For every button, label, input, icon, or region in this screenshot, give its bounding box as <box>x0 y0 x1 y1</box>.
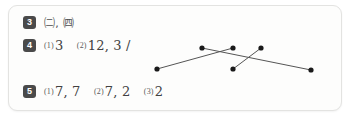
question-number-badge-3: 3 <box>23 16 36 29</box>
part-value: 2 <box>155 84 163 99</box>
answer-part: (1)3 <box>44 38 63 53</box>
part-value: 12, 3 / <box>88 38 131 53</box>
p-bottom-mid <box>230 66 235 71</box>
answer-part: (1)7, 7 <box>44 84 81 99</box>
part-label: (2) <box>77 41 87 50</box>
crossing-lines-matching-diagram <box>141 34 331 82</box>
p-bottom-right <box>308 67 313 72</box>
part-label: (2) <box>94 87 104 96</box>
seg-bottommid-to-topright <box>233 48 261 69</box>
question-number-badge-4: 4 <box>23 39 36 52</box>
part-label: (1) <box>44 41 54 50</box>
part-value: 7, 7 <box>55 84 81 99</box>
answer-key-card: 3 ㈡, ㈣ 4 (1)3 (2)12, 3 / 5 (1)7, 7 (2)7,… <box>8 5 342 111</box>
answer-part: (2)12, 3 / <box>77 38 131 53</box>
answer-part: (2)7, 2 <box>94 84 131 99</box>
p-top-mid <box>230 45 235 50</box>
part-label: (1) <box>44 87 54 96</box>
answer-row-3: 3 ㈡, ㈣ <box>23 14 74 30</box>
p-top-right <box>258 45 263 50</box>
p-top-left <box>199 45 204 50</box>
answer-value-5: (1)7, 7 (2)7, 2 (3)2 <box>44 84 163 99</box>
answer-row-5: 5 (1)7, 7 (2)7, 2 (3)2 <box>23 84 163 99</box>
part-value: 7, 2 <box>105 84 131 99</box>
answer-value-3: ㈡, ㈣ <box>44 14 74 30</box>
question-number-badge-5: 5 <box>23 85 36 98</box>
answer-value-4: (1)3 (2)12, 3 / <box>44 38 131 53</box>
diagram-points <box>154 45 313 72</box>
p-bottom-left <box>154 66 159 71</box>
part-label: (3) <box>144 87 154 96</box>
answer-part: (3)2 <box>144 84 163 99</box>
seg-left-to-topmid <box>157 48 233 69</box>
answer-row-4: 4 (1)3 (2)12, 3 / <box>23 38 131 53</box>
part-value: 3 <box>55 38 63 53</box>
